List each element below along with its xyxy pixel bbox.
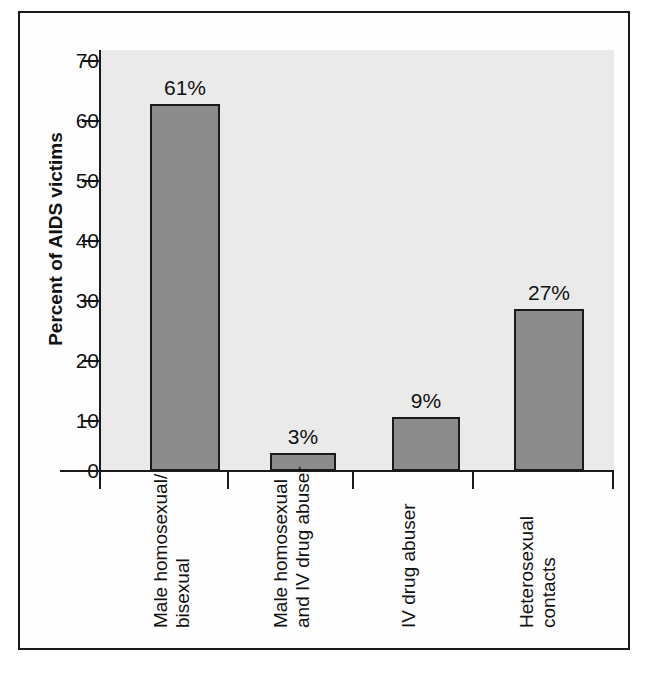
y-axis-line xyxy=(99,50,101,472)
bar-value: 9% xyxy=(411,389,441,413)
x-axis-label-line: bisexual xyxy=(172,474,194,628)
bar-heterosexual-contacts xyxy=(514,309,584,471)
x-axis-separator-tick xyxy=(472,472,474,489)
x-axis-separator-tick xyxy=(227,472,229,489)
x-axis-label-line: Male homosexual/ xyxy=(150,474,172,628)
bar-iv-drug-abuser xyxy=(392,417,460,471)
y-axis-title: Percent of AIDS victims xyxy=(45,99,67,379)
y-tick-label: 0 xyxy=(41,459,99,483)
bar-chart: 70 60 50 40 30 20 10 0 P xyxy=(20,13,632,652)
x-axis-separator-tick xyxy=(612,472,614,489)
x-axis-separator-tick xyxy=(352,472,354,489)
x-axis-label-male-homosexual-bisexual: Male homosexual/ bisexual xyxy=(150,474,195,628)
bar-value: 3% xyxy=(288,425,318,449)
x-axis-label-line: contacts xyxy=(538,516,560,628)
x-axis-label-iv-drug-abuser: IV drug abuser xyxy=(398,503,420,628)
x-axis-separator-tick xyxy=(99,472,101,489)
x-axis-label-line: IV drug abuser xyxy=(398,503,420,628)
figure-frame: 70 60 50 40 30 20 10 0 P xyxy=(18,11,630,650)
x-axis-label-heterosexual-contacts: Heterosexual contacts xyxy=(516,516,561,628)
x-axis-label-line: Heterosexual xyxy=(516,516,538,628)
y-tick-label: 10 xyxy=(41,409,99,433)
x-axis-label-male-homosexual-and-iv-drug-abuser: Male homosexual and IV drug abuser xyxy=(270,466,315,628)
x-axis-label-line: and IV drug abuser xyxy=(292,466,314,628)
y-tick-label: 70 xyxy=(41,49,99,73)
x-axis-label-line: Male homosexual xyxy=(270,466,292,628)
bar-male-homosexual-bisexual xyxy=(150,104,220,471)
bar-value: 27% xyxy=(528,281,570,305)
bar-value: 61% xyxy=(164,76,206,100)
